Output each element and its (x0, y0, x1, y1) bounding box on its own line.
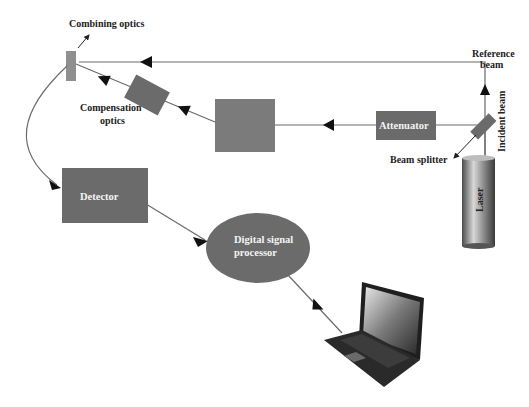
dsp-label-line2: processor (234, 247, 277, 258)
attenuated-beam-arrow (323, 119, 334, 131)
compensation-out-arrow (98, 76, 112, 87)
optical-setup-diagram: Combining optics Compensation optics Att… (0, 0, 529, 407)
computer-in-arrow (311, 298, 323, 311)
detector-in-arrow (49, 180, 61, 190)
laser-bottom (462, 243, 495, 249)
detector-label: Detector (80, 191, 119, 202)
combining-optics-label: Combining optics (69, 18, 144, 29)
combining-optics-element[interactable] (66, 51, 76, 81)
laser-label: Laser (474, 187, 485, 212)
laptop-icon[interactable] (324, 282, 424, 387)
beam-splitter-label: Beam splitter (390, 154, 448, 165)
detector-to-dsp-path (146, 204, 205, 240)
optical-component-box[interactable] (215, 99, 275, 152)
dsp-label-line1: Digital signal (234, 234, 293, 245)
incident-beam-label: Incident beam (496, 90, 507, 152)
compensation-optics-label-line1: Compensation (80, 102, 142, 113)
reference-beam-left-arrow (140, 56, 152, 68)
reference-beam-up-arrow (480, 84, 490, 95)
attenuator-label: Attenuator (379, 120, 429, 131)
combining-optics-pointer (78, 35, 89, 48)
compensation-optics-label-line2: optics (100, 115, 125, 126)
dsp-in-arrow (193, 237, 208, 247)
reference-beam-label-line2: beam (480, 59, 504, 70)
laser-top (462, 155, 495, 161)
beam-splitter-element[interactable] (470, 113, 496, 139)
beam-splitter-pointer (454, 135, 476, 158)
combined-beam-path (26, 66, 67, 185)
reference-beam-label-line1: Reference (472, 48, 515, 59)
